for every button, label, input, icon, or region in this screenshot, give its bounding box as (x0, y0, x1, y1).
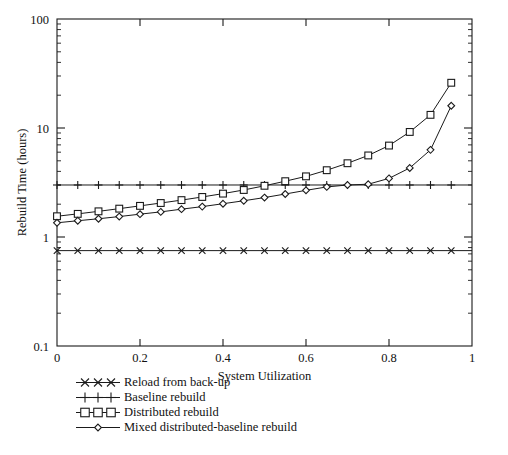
legend-label-reload: Reload from back-up (124, 375, 230, 390)
legend-label-baseline: Baseline rebuild (124, 390, 206, 405)
legend-key-svg (72, 390, 124, 405)
x-tick-label: 1 (469, 351, 475, 365)
legend-item-baseline: Baseline rebuild (72, 390, 206, 405)
x-tick-label: 0.4 (215, 351, 231, 365)
y-tick-label: 10 (37, 122, 50, 136)
legend-label-mixed: Mixed distributed-baseline rebuild (124, 420, 297, 435)
series-0 (54, 247, 472, 253)
y-axis-title: Rebuild Time (hours) (15, 129, 29, 237)
y-tick-label: 100 (30, 13, 49, 27)
legend-marker-square-icon (72, 405, 124, 420)
series-3 (54, 102, 455, 226)
legend-item-reload: Reload from back-up (72, 375, 230, 390)
legend-key-svg (72, 405, 124, 420)
legend-marker-plus-icon (72, 390, 124, 405)
legend-key-svg (72, 375, 124, 390)
x-tick-label: 0.8 (381, 351, 397, 365)
legend-item-mixed: Mixed distributed-baseline rebuild (72, 420, 297, 435)
legend-marker-diamond-icon (72, 420, 124, 435)
legend-label-distributed: Distributed rebuild (124, 405, 219, 420)
y-tick-label: 0.1 (33, 340, 49, 354)
legend-key-svg (72, 420, 124, 435)
x-tick-label: 0.6 (298, 351, 314, 365)
series-2 (54, 79, 455, 219)
legend-item-distributed: Distributed rebuild (72, 405, 219, 420)
x-tick-label: 0.2 (132, 351, 148, 365)
x-tick-label: 0 (54, 351, 60, 365)
x-axis-title: System Utilization (218, 369, 312, 383)
y-tick-label: 1 (43, 231, 49, 245)
legend-marker-x-icon (72, 375, 124, 390)
